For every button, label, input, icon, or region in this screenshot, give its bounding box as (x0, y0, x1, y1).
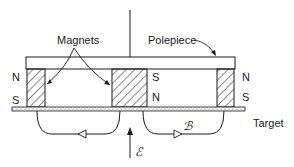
target-label: Target (253, 117, 284, 129)
magnet-left (27, 69, 45, 107)
target-plate (12, 107, 245, 111)
magnet-middle (112, 69, 147, 107)
pole-left-top: N (12, 71, 20, 83)
e-field-label: ℰ (135, 145, 144, 159)
pole-left-bottom: S (12, 94, 19, 106)
pole-middle-top: S (152, 71, 159, 83)
magnetron-diagram: Magnets Polepiece Target N S S N N S ℬ ℰ (0, 0, 294, 167)
polepiece (26, 57, 235, 69)
up-arrow-icon (127, 127, 133, 135)
magnets-label: Magnets (57, 34, 100, 46)
field-loop-left (37, 111, 120, 134)
arrowhead-icon (211, 50, 216, 56)
arrowhead-icon (104, 80, 110, 85)
polepiece-label: Polepiece (148, 34, 196, 46)
left-arrow-icon (78, 130, 86, 138)
magnet-right (217, 69, 234, 107)
pole-middle-bottom: N (152, 91, 160, 103)
pole-right-bottom: S (242, 91, 249, 103)
polepiece-leader (194, 40, 215, 55)
right-arrow-icon (174, 130, 182, 138)
b-field-label: ℬ (183, 119, 194, 133)
pole-right-top: N (242, 71, 250, 83)
